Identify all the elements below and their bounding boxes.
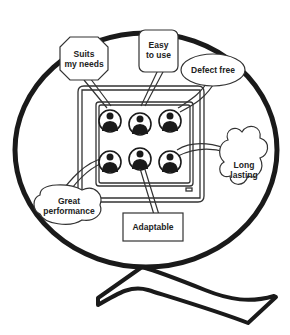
avatar-3 <box>159 110 181 132</box>
callout-defect-label: Defect free <box>181 65 245 75</box>
callout-long-label: Long lasting <box>222 160 266 180</box>
ribbon-tail <box>98 267 276 323</box>
avatar-5 <box>129 148 151 170</box>
callout-suits-label: Suits my needs <box>60 49 108 69</box>
callout-adapt-label: Adaptable <box>123 222 183 232</box>
quality-diagram: Suits my needs Easy to use Defect free L… <box>0 0 290 335</box>
callout-great-label: Great performance <box>34 196 104 216</box>
avatar-6 <box>159 151 181 173</box>
callout-easy-label: Easy to use <box>139 40 178 60</box>
avatar-2 <box>129 113 151 135</box>
avatar-1 <box>99 110 121 132</box>
avatar-4 <box>99 151 121 173</box>
